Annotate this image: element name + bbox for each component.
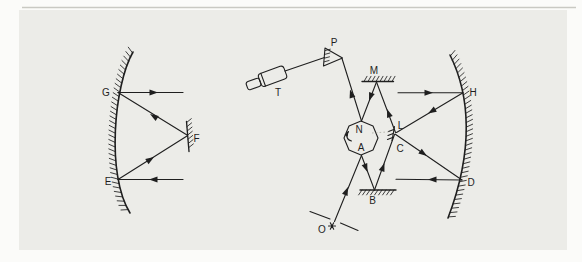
label-G: G xyxy=(102,87,110,98)
label-E: E xyxy=(105,176,112,187)
scanned-figure-page: G F E xyxy=(0,0,582,262)
label-L: L xyxy=(398,120,404,131)
label-D: D xyxy=(467,177,474,188)
optical-diagram: G F E xyxy=(0,0,582,262)
label-A: A xyxy=(358,142,365,153)
label-N: N xyxy=(355,124,362,135)
label-B: B xyxy=(369,195,376,206)
label-T: T xyxy=(275,87,281,98)
label-H: H xyxy=(469,87,476,98)
label-F: F xyxy=(193,133,199,144)
label-O: O xyxy=(318,224,326,235)
label-M: M xyxy=(370,65,378,76)
figure-panel xyxy=(19,10,567,250)
label-C: C xyxy=(396,143,403,154)
label-P: P xyxy=(331,37,338,48)
